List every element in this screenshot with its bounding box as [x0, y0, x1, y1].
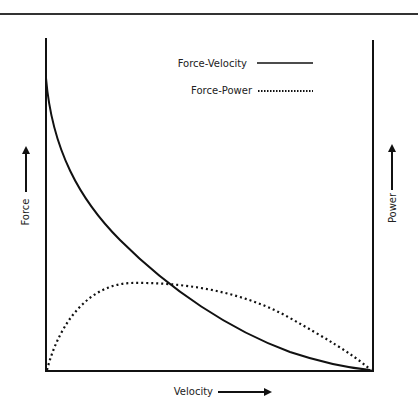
y-axis-left-label: Force [20, 198, 31, 225]
legend: Force-Velocity Force-Power [178, 58, 313, 96]
force-power-curve [47, 283, 371, 370]
force-velocity-curve [46, 78, 370, 370]
legend-label-force-power: Force-Power [191, 85, 253, 96]
legend-label-force-velocity: Force-Velocity [178, 58, 247, 69]
y-axis-right-label: Power [387, 192, 398, 223]
x-axis-label: Velocity [174, 386, 213, 397]
chart-canvas: Force-Velocity Force-Power Velocity Forc… [0, 0, 418, 411]
